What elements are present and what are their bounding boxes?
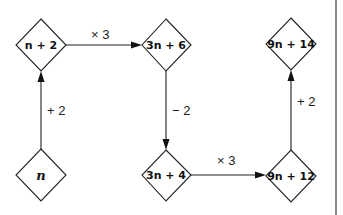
node-9n-plus-14: 9n + 14 — [266, 18, 316, 70]
edge-label: × 3 — [217, 153, 235, 168]
edge-3n-plus-4-to-9n-plus-12: × 3 — [191, 153, 266, 179]
node-label: n — [36, 168, 45, 183]
arrowhead-down-icon — [163, 139, 170, 150]
edge-n-plus-2-to-3n-plus-6: × 3 — [66, 27, 142, 49]
edge-label: + 2 — [47, 103, 65, 118]
node-3n-plus-4: 3n + 4 — [142, 150, 191, 201]
node-label: 3n + 4 — [146, 169, 186, 182]
edge-label: + 2 — [297, 94, 315, 109]
node-label: 3n + 6 — [146, 39, 186, 52]
edge-label: × 3 — [91, 27, 109, 42]
flow-diagram: + 2 × 3 − 2 × 3 + 2 n n + 2 3n + 6 3n — [0, 0, 343, 215]
edge-label: − 2 — [172, 103, 190, 118]
node-3n-plus-6: 3n + 6 — [142, 19, 191, 71]
edge-3n-plus-6-to-3n-plus-4: − 2 — [163, 71, 191, 150]
node-n-plus-2: n + 2 — [16, 19, 66, 71]
arrowhead-right-icon — [131, 42, 142, 49]
node-label: n + 2 — [25, 39, 57, 52]
node-n: n — [16, 149, 66, 201]
arrowhead-right-icon — [255, 172, 266, 179]
node-label: 9n + 12 — [267, 170, 315, 183]
arrowhead-up-icon — [288, 70, 295, 81]
edge-9n-plus-12-to-9n-plus-14: + 2 — [288, 70, 316, 150]
node-label: 9n + 14 — [267, 38, 315, 51]
node-9n-plus-12: 9n + 12 — [266, 150, 316, 202]
arrowhead-up-icon — [38, 71, 45, 82]
edge-n-to-n-plus-2: + 2 — [38, 71, 66, 149]
